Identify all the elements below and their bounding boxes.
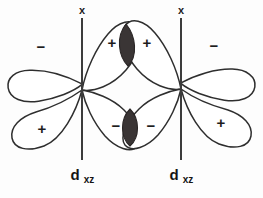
left-orbital-lower-left-sign: + — [38, 120, 47, 137]
left-x-axis-label: x — [79, 4, 86, 16]
orbital-overlap-figure: x x − + + − + − − + d xz d xz — [0, 0, 263, 198]
orbital-diagram-svg: x x − + + − + − − + d xz d xz — [0, 0, 263, 198]
right-orbital-label: d xz — [169, 166, 193, 185]
right-orbital-lower-left-sign: − — [147, 117, 156, 134]
left-orbital-upper-right-sign: + — [108, 34, 117, 51]
right-orbital-label-letter: d — [169, 166, 178, 183]
right-orbital-lower-right-sign: + — [217, 114, 226, 131]
right-orbital-upper-left-sign: + — [143, 34, 152, 51]
right-x-axis-label: x — [178, 4, 185, 16]
left-orbital-lower-right-sign: − — [112, 117, 121, 134]
left-orbital-label: d xz — [70, 166, 94, 185]
right-orbital-label-subscript: xz — [183, 174, 194, 185]
left-orbital-label-letter: d — [70, 166, 79, 183]
left-orbital-upper-left-sign: − — [37, 38, 46, 55]
right-orbital-upper-right-sign: − — [210, 37, 219, 54]
left-orbital-label-subscript: xz — [84, 174, 95, 185]
